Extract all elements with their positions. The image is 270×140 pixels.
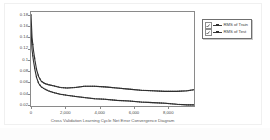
series-marker [101,98,102,99]
series-marker [52,85,53,86]
series-marker [88,86,89,87]
series-marker [192,89,193,90]
series-marker [119,88,120,89]
series-marker [85,86,86,87]
series-marker [38,82,39,83]
series-marker [175,91,176,92]
series-marker [110,99,111,100]
series-marker [177,104,178,105]
y-tick-label: 0.04 [2,92,28,96]
series-marker [166,91,167,92]
series-marker [148,90,149,91]
series-marker [132,89,133,90]
series-marker [139,101,140,102]
series-marker [155,90,156,91]
chart-screenshot: 0.020.040.060.080.10.120.140.160.18 02,0… [0,0,270,140]
series-marker [130,89,131,90]
y-tick-label: 0.06 [2,80,28,84]
series-marker [47,84,48,85]
series-marker [193,89,194,90]
series-marker [121,88,122,89]
chart-legend[interactable]: RMS of Train RMS of Test [202,19,252,39]
series-marker [54,92,55,93]
y-tick-label: 0.1 [2,58,28,62]
series-marker [38,75,39,76]
y-tick-label: 0.02 [2,103,28,107]
series-marker [150,90,151,91]
series-marker [172,103,173,104]
series-marker [96,98,97,99]
series-marker [116,87,117,88]
series-marker [97,86,98,87]
series-marker [70,87,71,88]
series-marker [41,87,42,88]
check-icon [206,31,210,35]
series-marker [87,97,88,98]
series-marker [54,85,55,86]
series-marker [32,55,33,56]
series-marker [110,87,111,88]
y-tick-label: 0.16 [2,24,28,28]
series-marker [59,94,60,95]
series-marker [166,103,167,104]
bottom-band [0,128,270,140]
series-marker [161,102,162,103]
series-marker [72,95,73,96]
series-marker [164,91,165,92]
series-marker [175,104,176,105]
series-marker [67,87,68,88]
series-marker [181,91,182,92]
series-marker [188,104,189,105]
series-marker [184,104,185,105]
series-marker [70,95,71,96]
series-marker [39,78,40,79]
series-marker [105,86,106,87]
series-marker [193,104,194,105]
series-marker [32,44,33,45]
series-marker [188,90,189,91]
series-marker [134,89,135,90]
series-marker [112,99,113,100]
legend-symbol-rms-of-train [213,23,222,28]
series-layer [31,12,194,106]
series-marker [34,58,35,59]
series-marker [61,94,62,95]
legend-item-rms-of-test[interactable]: RMS of Test [205,29,248,36]
series-marker [128,100,129,101]
series-marker [177,91,178,92]
series-marker [154,90,155,91]
series-marker [31,14,32,15]
series-marker [97,98,98,99]
series-marker [58,93,59,94]
series-marker [43,82,44,83]
series-marker [108,99,109,100]
series-marker [181,104,182,105]
series-marker [146,102,147,103]
legend-checkbox-rms-of-train[interactable] [205,22,212,29]
series-marker [168,103,169,104]
series-marker [88,97,89,98]
series-marker [59,87,60,88]
y-axis: 0.020.040.060.080.10.120.140.160.18 [0,11,28,107]
series-marker [68,95,69,96]
series-marker [148,102,149,103]
series-marker [99,86,100,87]
series-marker [135,89,136,90]
y-tick-label: 0.14 [2,35,28,39]
series-marker [125,88,126,89]
series-marker [36,76,37,77]
series-marker [74,96,75,97]
series-marker [132,101,133,102]
series-marker [143,102,144,103]
series-marker [179,91,180,92]
series-marker [72,87,73,88]
series-marker [50,85,51,86]
legend-item-rms-of-train[interactable]: RMS of Train [205,22,248,29]
series-marker [92,98,93,99]
series-marker [90,86,91,87]
series-marker [81,86,82,87]
x-tick-label: 0 [30,111,32,115]
series-marker [77,96,78,97]
series-marker [94,86,95,87]
legend-checkbox-rms-of-test[interactable] [205,29,212,36]
